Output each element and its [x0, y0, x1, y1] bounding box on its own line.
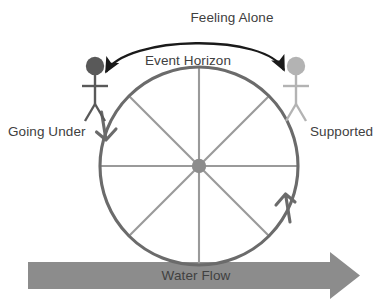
diagram-canvas: Water Flow — [0, 0, 376, 306]
spoke-nw — [129, 96, 199, 166]
figure-head-right — [287, 57, 305, 75]
spoke-ne — [199, 96, 269, 166]
supported-label: Supported — [310, 124, 373, 139]
figure-head-left — [86, 57, 104, 75]
spoke-se — [199, 166, 269, 236]
wheel-hub — [192, 159, 206, 173]
supported-figure — [283, 57, 309, 121]
event-horizon-label: Event Horizon — [145, 53, 231, 68]
spoke-sw — [129, 166, 199, 236]
going-under-figure — [82, 57, 108, 121]
concept-diagram: Water Flow — [0, 0, 376, 306]
figure-leg-left-a — [85, 104, 95, 121]
feeling-alone-label: Feeling Alone — [190, 10, 273, 25]
figure-leg-right-b — [296, 104, 306, 121]
right-ascending-arrow-icon — [276, 194, 295, 222]
figure-leg-right-a — [286, 104, 296, 121]
wheel — [97, 67, 299, 265]
water-flow-arrow: Water Flow — [28, 252, 360, 299]
figure-leg-left-b — [95, 104, 105, 121]
water-flow-label: Water Flow — [162, 268, 231, 283]
going-under-label: Going Under — [8, 124, 86, 139]
